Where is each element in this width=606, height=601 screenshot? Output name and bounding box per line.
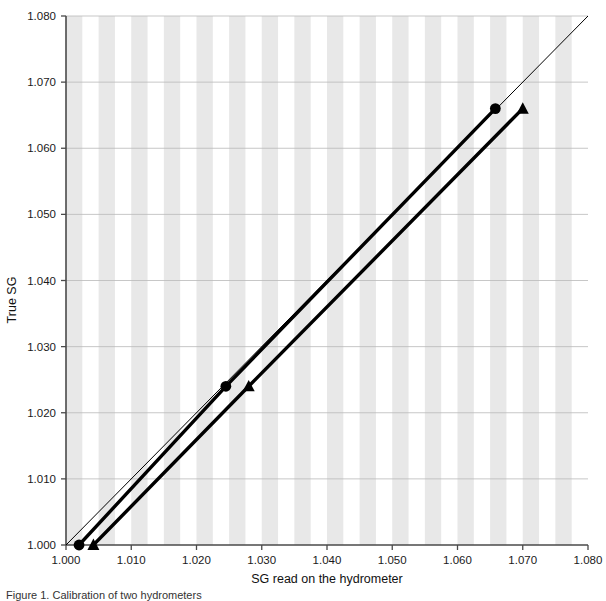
y-tick-group: 1.0001.0101.0201.0301.0401.0501.0601.070… [27, 10, 66, 551]
figure-caption: Figure 1. Calibration of two hydrometers [6, 589, 202, 601]
x-tick-label: 1.040 [313, 554, 342, 566]
y-tick-label: 1.040 [27, 275, 56, 287]
x-tick-label: 1.030 [247, 554, 276, 566]
x-tick-label: 1.020 [182, 554, 211, 566]
y-tick-label: 1.080 [27, 10, 56, 22]
x-tick-label: 1.080 [574, 554, 603, 566]
x-axis-title: SG read on the hydrometer [251, 572, 402, 586]
data-point-circle [490, 103, 501, 114]
x-tick-label: 1.070 [508, 554, 537, 566]
y-tick-label: 1.000 [27, 539, 56, 551]
data-point-circle [220, 381, 231, 392]
y-tick-label: 1.010 [27, 473, 56, 485]
x-tick-label: 1.000 [52, 554, 81, 566]
y-tick-label: 1.020 [27, 407, 56, 419]
y-tick-label: 1.060 [27, 142, 56, 154]
data-point-circle [74, 540, 85, 551]
x-tick-label: 1.060 [443, 554, 472, 566]
calibration-chart: 1.0001.0101.0201.0301.0401.0501.0601.070… [0, 0, 606, 601]
x-tick-group: 1.0001.0101.0201.0301.0401.0501.0601.070… [52, 545, 603, 566]
y-axis-title: True SG [5, 277, 19, 324]
x-tick-label: 1.050 [378, 554, 407, 566]
x-tick-label: 1.010 [117, 554, 146, 566]
y-tick-label: 1.050 [27, 208, 56, 220]
y-tick-label: 1.070 [27, 76, 56, 88]
figure-container: 1.0001.0101.0201.0301.0401.0501.0601.070… [0, 0, 606, 601]
y-tick-label: 1.030 [27, 341, 56, 353]
